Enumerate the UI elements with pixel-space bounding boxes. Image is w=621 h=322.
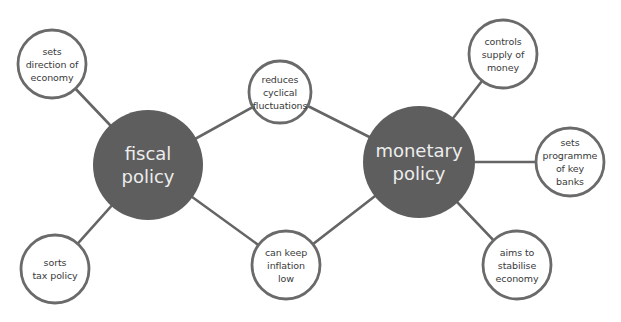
sorts-tax-label: sorts tax policy xyxy=(21,235,89,303)
sets-direction-label: sets direction of economy xyxy=(18,30,86,98)
reduces-cyclical-label: reduces cyclical fluctuations xyxy=(249,61,311,123)
keep-inflation-label: can keep inflation low xyxy=(252,231,320,299)
sets-programme-label: sets programme of key banks xyxy=(536,128,604,196)
controls-supply-label: controls supply of money xyxy=(469,20,537,88)
monetary-policy-label: monetary policy xyxy=(363,106,475,218)
aims-stabilise-label: aims to stabilise economy xyxy=(483,231,551,299)
policy-mind-map: fiscal policy monetary policy sets direc… xyxy=(0,0,621,322)
fiscal-policy-label: fiscal policy xyxy=(93,110,203,220)
